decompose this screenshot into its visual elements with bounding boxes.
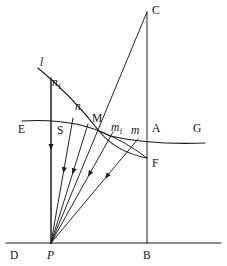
point-label-m: m xyxy=(131,124,139,136)
point-label-S: S xyxy=(57,124,63,136)
point-label-E: E xyxy=(18,123,25,135)
point-label-F: F xyxy=(152,157,158,169)
label-text-D: D xyxy=(10,249,18,261)
label-text-G: G xyxy=(193,122,201,134)
label-text-mf: m xyxy=(111,121,119,133)
label-text-A: A xyxy=(152,122,161,134)
label-text-B: B xyxy=(143,249,151,261)
point-label-D: D xyxy=(10,249,18,261)
label-text-S: S xyxy=(57,124,63,136)
label-text-M: M xyxy=(92,112,102,124)
label-text-P: P xyxy=(46,249,54,261)
label-text-nf: n xyxy=(52,76,58,88)
point-label-P: P xyxy=(46,249,54,261)
label-text-l: l xyxy=(40,56,43,68)
point-label-C: C xyxy=(152,4,160,16)
label-text-C: C xyxy=(152,4,160,16)
point-label-G: G xyxy=(193,122,201,134)
label-text-F: F xyxy=(152,157,158,169)
point-label-l: l xyxy=(40,56,43,68)
figure-canvas: ClnfnMESmfmAGFDPB xyxy=(0,0,227,266)
point-label-n: n xyxy=(75,100,81,112)
label-text-E: E xyxy=(18,123,25,135)
geometry-diagram: ClnfnMESmfmAGFDPB xyxy=(0,0,227,266)
point-label-B: B xyxy=(143,249,151,261)
point-label-A: A xyxy=(152,122,161,134)
point-label-M: M xyxy=(92,112,102,124)
label-text-m: m xyxy=(131,124,139,136)
label-text-n: n xyxy=(75,100,81,112)
